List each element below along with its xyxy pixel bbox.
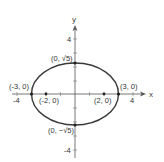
y-tick-label-4: 4 xyxy=(67,35,71,44)
y-axis xyxy=(73,25,78,158)
x-tick-label-4: 4 xyxy=(130,96,134,105)
covertex-top-label: (0, √5) xyxy=(51,54,73,63)
focus-right-label: (2, 0) xyxy=(94,96,112,105)
ellipse-diagram: y x -4 4 4 -4 (-3, 0) (3, 0) (0, √5) (0,… xyxy=(0,0,164,162)
x-tick-label-neg4: -4 xyxy=(13,96,20,105)
covertex-bottom-label: (0, −√5) xyxy=(48,126,75,135)
focus-left-point xyxy=(45,93,48,96)
covertex-top-point xyxy=(73,61,76,64)
vertex-right-point xyxy=(117,92,120,95)
y-tick-label-neg4: -4 xyxy=(64,146,71,155)
vertex-right-label: (3, 0) xyxy=(120,82,138,91)
vertex-left-point xyxy=(30,92,33,95)
focus-left-label: (-2, 0) xyxy=(39,96,60,105)
focus-right-point xyxy=(103,93,106,96)
x-axis-label: x xyxy=(149,90,153,99)
vertex-left-label: (-3, 0) xyxy=(9,82,30,91)
y-axis-label: y xyxy=(72,15,76,24)
